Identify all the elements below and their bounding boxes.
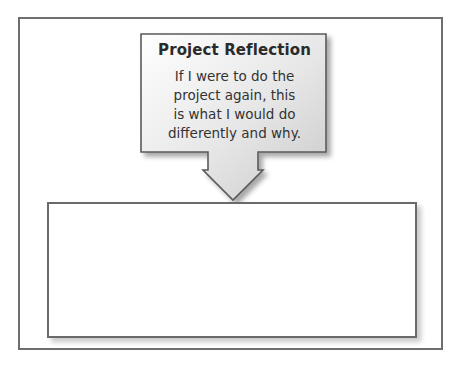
callout-title: Project Reflection [143, 41, 326, 59]
prompt-line: project again, this [143, 86, 326, 105]
prompt-line: is what I would do [143, 105, 326, 124]
reflection-response-box[interactable] [47, 202, 417, 338]
prompt-line: differently and why. [143, 124, 326, 143]
prompt-line: If I were to do the [143, 67, 326, 86]
callout: Project Reflection If I were to do the p… [143, 36, 326, 143]
callout-prompt: If I were to do the project again, this … [143, 67, 326, 143]
